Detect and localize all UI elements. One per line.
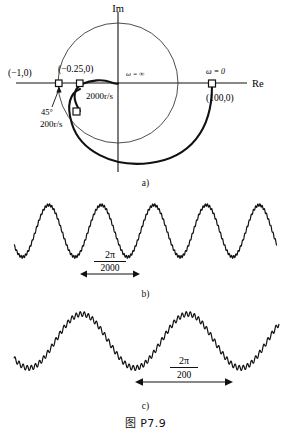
- waveform-c-svg: 2π 200: [0, 306, 291, 406]
- imaginary-axis-label: Im: [112, 3, 124, 14]
- marker-2000rs-square[interactable]: [77, 80, 84, 87]
- label-marker-200rs: 200r/s: [40, 119, 63, 129]
- period-label-b-numerator: 2π: [105, 249, 115, 260]
- panel-a-nyquist: Im Re (−1,0) (−0.25,0) ω = ∞ ω = 0 (100,…: [0, 0, 291, 196]
- period-label-c-denominator: 200: [177, 370, 192, 380]
- panel-b-label: b): [0, 289, 291, 299]
- label-phase-margin: 45°: [41, 107, 53, 117]
- marker-200rs-square[interactable]: [73, 108, 80, 115]
- label-point-minus-one: (−1,0): [8, 68, 32, 79]
- period-arrow-c-head-right: [225, 378, 233, 386]
- label-marker-2000rs: 2000r/s: [86, 91, 113, 101]
- real-axis-label: Re: [252, 78, 264, 89]
- waveform-b-trace: [14, 204, 277, 258]
- label-point-hundred: (100,0): [206, 93, 234, 104]
- label-point-minus-quarter: (−0.25,0): [58, 64, 93, 75]
- panel-a-label: a): [0, 178, 291, 188]
- label-omega-infinity: ω = ∞: [126, 70, 144, 78]
- waveform-c-trace: [14, 312, 279, 371]
- figure-p7-9: Im Re (−1,0) (−0.25,0) ω = ∞ ω = 0 (100,…: [0, 0, 291, 434]
- period-label-c-numerator: 2π: [179, 355, 189, 366]
- panel-c-label: c): [0, 401, 291, 411]
- period-arrow-b-head-right: [133, 271, 140, 278]
- panel-c-waveform: 2π 200: [0, 306, 291, 406]
- marker-omega-zero-square[interactable]: [209, 80, 216, 87]
- label-omega-zero: ω = 0: [206, 67, 225, 76]
- period-arrow-c-head-left: [135, 378, 143, 386]
- period-arrow-b-head-left: [80, 271, 87, 278]
- period-label-b-denominator: 2000: [101, 263, 120, 273]
- figure-caption: 图 P7.9: [0, 414, 291, 430]
- nyquist-svg: Im Re (−1,0) (−0.25,0) ω = ∞ ω = 0 (100,…: [0, 0, 291, 196]
- marker-minus-one-square[interactable]: [56, 80, 63, 87]
